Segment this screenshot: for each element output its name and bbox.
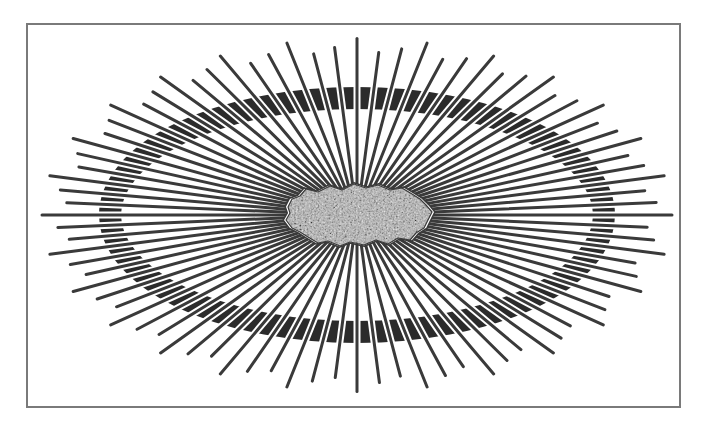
radial-diagram [0, 0, 704, 431]
diagram-canvas: central cell body elliptical band radiat… [0, 0, 704, 431]
